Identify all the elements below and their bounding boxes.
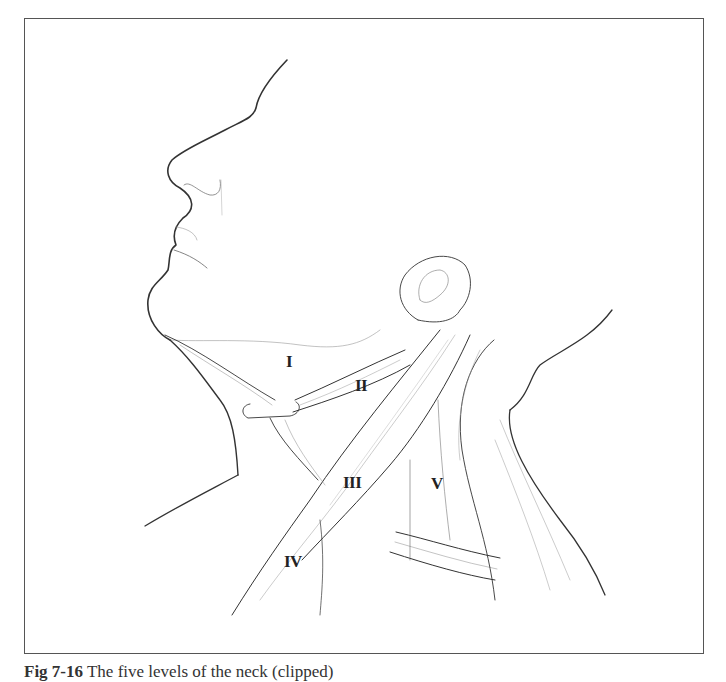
level-label-v: V bbox=[431, 474, 443, 494]
level-label-ii: II bbox=[355, 376, 367, 396]
caption-text: The five levels of the neck (clipped) bbox=[87, 662, 333, 681]
level-label-iii: III bbox=[343, 473, 361, 493]
figure-number: Fig 7-16 bbox=[24, 662, 83, 681]
level-label-iv: IV bbox=[284, 552, 302, 572]
figure-caption: Fig 7-16 The five levels of the neck (cl… bbox=[24, 662, 333, 682]
level-label-i: I bbox=[286, 352, 292, 372]
